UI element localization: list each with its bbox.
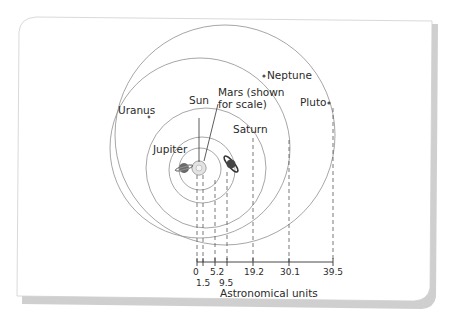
uranus-marker bbox=[148, 116, 151, 119]
tick-label-1-5: 1.5 bbox=[196, 278, 210, 288]
neptune-marker bbox=[262, 74, 265, 77]
tick-label-30-1: 30.1 bbox=[280, 267, 300, 277]
label-saturn: Saturn bbox=[233, 123, 268, 135]
pluto-marker bbox=[327, 101, 330, 104]
sun-icon bbox=[192, 161, 206, 175]
label-mars-line2: for scale) bbox=[218, 98, 267, 110]
tick-label-5-2: 5.2 bbox=[210, 267, 224, 277]
label-jupiter: Jupiter bbox=[152, 143, 188, 155]
axis-title: Astronomical units bbox=[220, 287, 318, 299]
tick-label-39-5: 39.5 bbox=[323, 267, 343, 277]
label-neptune: Neptune bbox=[267, 69, 312, 81]
label-uranus: Uranus bbox=[118, 104, 155, 116]
label-pluto: Pluto bbox=[300, 96, 326, 108]
label-mars-line1: Mars (shown bbox=[218, 86, 285, 98]
tick-label-0: 0 bbox=[193, 267, 199, 277]
label-sun: Sun bbox=[189, 94, 209, 106]
tick-label-19-2: 19.2 bbox=[244, 267, 264, 277]
solar-system-diagram-card: 0 1.5 5.2 9.5 19.2 30.1 39.5 Astronomica… bbox=[0, 0, 456, 320]
